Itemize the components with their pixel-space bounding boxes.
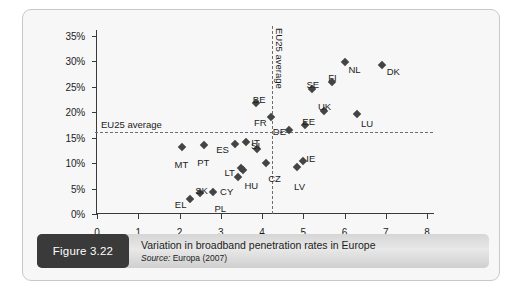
data-point-label: SK xyxy=(195,186,208,196)
x-tick: 1 xyxy=(138,214,139,219)
data-point-label: MT xyxy=(175,160,189,170)
data-point-label: ES xyxy=(216,145,229,155)
x-axis-line xyxy=(96,213,434,214)
figure-container: 0%5%10%15%20%25%30%35% 012345678 EU25 av… xyxy=(0,0,521,298)
x-tick: 8 xyxy=(427,214,428,219)
data-point-marker xyxy=(262,159,270,167)
data-point-marker xyxy=(340,58,348,66)
data-point-label: FI xyxy=(328,73,336,83)
y-tick: 30% xyxy=(92,61,97,62)
x-tick: 7 xyxy=(386,214,387,219)
y-tick: 25% xyxy=(92,87,97,88)
source-value: Europa (2007) xyxy=(170,253,227,263)
y-axis-line xyxy=(96,30,97,214)
y-tick: 10% xyxy=(92,163,97,164)
y-tick-label: 25% xyxy=(66,81,85,92)
chart-plot-wrapper: 0%5%10%15%20%25%30%35% 012345678 EU25 av… xyxy=(23,10,501,232)
x-tick: 5 xyxy=(303,214,304,219)
data-point-marker xyxy=(234,173,242,181)
data-point-label: DK xyxy=(387,67,400,77)
eu25-average-horizontal-line xyxy=(95,132,433,133)
y-tick-label: 5% xyxy=(71,183,85,194)
figure-number-badge: Figure 3.22 xyxy=(37,234,129,268)
x-tick: 4 xyxy=(262,214,263,219)
x-tick: 3 xyxy=(221,214,222,219)
figure-caption-text: Variation in broadband penetration rates… xyxy=(141,239,481,264)
data-point-marker xyxy=(267,113,275,121)
data-point-label: EL xyxy=(175,200,187,210)
y-tick-label: 10% xyxy=(66,158,85,169)
y-tick: 35% xyxy=(92,36,97,37)
eu25-average-vertical-label: EU25 average xyxy=(274,28,285,89)
data-point-label: PT xyxy=(197,158,209,168)
figure-caption-bar: Figure 3.22 Variation in broadband penet… xyxy=(37,234,489,268)
data-point-label: FR xyxy=(254,118,267,128)
data-point-label: LV xyxy=(294,182,305,192)
y-tick: 20% xyxy=(92,112,97,113)
data-point-label: NL xyxy=(349,65,361,75)
data-point-label: CY xyxy=(220,187,233,197)
data-point-marker xyxy=(200,141,208,149)
data-point-label: LT xyxy=(224,168,234,178)
data-point-label: UK xyxy=(318,102,331,112)
data-point-marker xyxy=(231,140,239,148)
x-tick: 2 xyxy=(180,214,181,219)
y-tick-label: 30% xyxy=(66,56,85,67)
x-tick: 6 xyxy=(345,214,346,219)
figure-caption-title: Variation in broadband penetration rates… xyxy=(141,239,481,252)
data-point-label: SE xyxy=(307,80,320,90)
figure-caption-source: Source: Europa (2007) xyxy=(141,252,481,264)
data-point-label: DE xyxy=(273,127,286,137)
data-point-label: CZ xyxy=(268,174,281,184)
data-point-marker xyxy=(293,162,301,170)
data-point-label: IE xyxy=(306,154,315,164)
eu25-average-vertical-line xyxy=(272,26,273,214)
data-point-marker xyxy=(239,166,247,174)
data-point-marker xyxy=(377,61,385,69)
scatter-plot-area: 0%5%10%15%20%25%30%35% 012345678 EU25 av… xyxy=(97,36,427,214)
data-point-marker xyxy=(186,194,194,202)
x-tick: 0 xyxy=(97,214,98,219)
data-point-label: HU xyxy=(244,181,258,191)
source-word: Source: xyxy=(141,253,170,263)
y-tick-label: 35% xyxy=(66,31,85,42)
data-point-label: PL xyxy=(215,204,227,214)
data-point-label: EE xyxy=(302,117,315,127)
data-point-label: BE xyxy=(253,95,266,105)
data-point-marker xyxy=(177,143,185,151)
data-point-label: LU xyxy=(361,119,373,129)
y-tick: 15% xyxy=(92,138,97,139)
data-point-marker xyxy=(208,187,216,195)
data-point-marker xyxy=(242,138,250,146)
y-tick-label: 0% xyxy=(71,209,85,220)
y-tick-label: 20% xyxy=(66,107,85,118)
data-point-marker xyxy=(353,110,361,118)
y-tick: 5% xyxy=(92,189,97,190)
figure-panel: 0%5%10%15%20%25%30%35% 012345678 EU25 av… xyxy=(22,9,500,281)
y-tick-label: 15% xyxy=(66,132,85,143)
data-point-label: SI xyxy=(251,141,260,151)
eu25-average-horizontal-label: EU25 average xyxy=(101,119,162,130)
